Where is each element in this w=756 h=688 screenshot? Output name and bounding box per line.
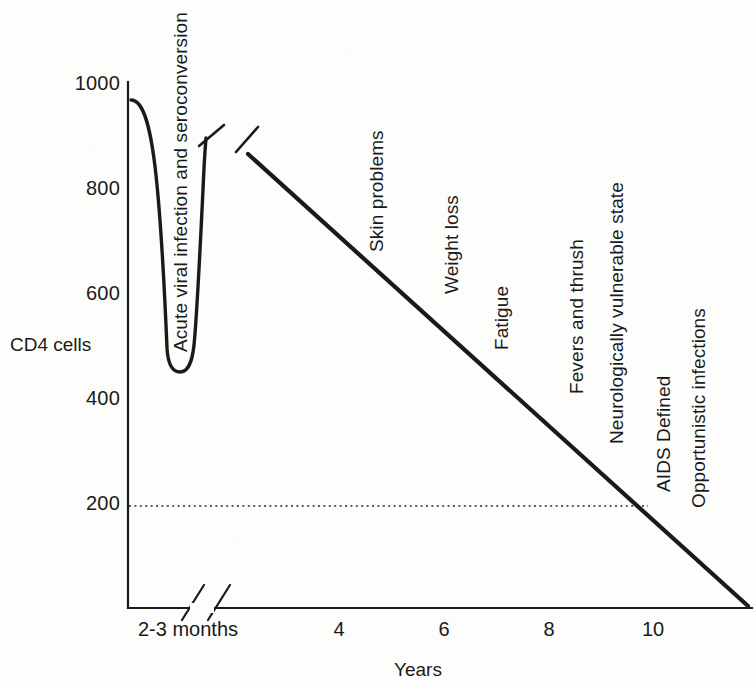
y-tick-label-200: 200 — [40, 492, 120, 515]
acute-curve-break-slash — [199, 125, 224, 146]
acute-phase-curve — [131, 100, 206, 372]
x-axis-break-slash-right — [208, 585, 230, 620]
annotation-aids-defined: AIDS Defined — [653, 376, 675, 492]
y-tick-label-800: 800 — [40, 177, 120, 200]
x-tick-label-2-3-months: 2-3 months — [128, 618, 248, 641]
annotation-neurologically-vulnerable-state: Neurologically vulnerable state — [606, 182, 628, 444]
x-tick-label-8: 8 — [537, 618, 561, 641]
x-axis-break-gap — [190, 603, 214, 613]
cd4-decline-plot — [0, 0, 756, 688]
chart-figure: 1000 800 600 400 200 CD4 cells 2-3 month… — [0, 0, 756, 688]
annotation-acute-viral-infection: Acute viral infection and seroconversion — [170, 12, 192, 352]
annotation-fevers-and-thrush: Fevers and thrush — [566, 239, 588, 394]
y-axis-title: CD4 cells — [10, 334, 91, 356]
x-tick-label-4: 4 — [327, 618, 351, 641]
annotation-skin-problems: Skin problems — [366, 130, 388, 252]
annotation-opportunistic-infections: Opportunistic infections — [688, 308, 710, 508]
annotation-fatigue: Fatigue — [491, 286, 513, 350]
y-tick-label-400: 400 — [40, 387, 120, 410]
x-tick-label-10: 10 — [636, 618, 670, 641]
annotation-weight-loss: Weight loss — [441, 195, 463, 294]
chronic-line-break-slash — [236, 127, 258, 152]
y-tick-label-1000: 1000 — [40, 72, 120, 95]
x-axis-break-slash-left — [182, 585, 204, 620]
x-tick-label-6: 6 — [432, 618, 456, 641]
x-axis-title: Years — [394, 659, 442, 681]
y-tick-label-600: 600 — [40, 282, 120, 305]
